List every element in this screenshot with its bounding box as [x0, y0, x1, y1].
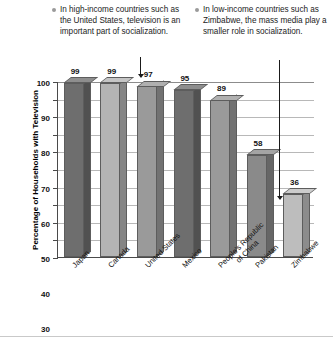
bar-top-face: [283, 188, 317, 194]
bar-top-face: [137, 81, 171, 87]
y-axis-tick-label: 90: [41, 114, 50, 123]
y-axis-tick-label: 30: [41, 325, 50, 334]
bar-value-label: 97: [144, 70, 153, 79]
plot-area: 010203040506070809010099999795895836: [57, 82, 313, 258]
arrow-to-united-states: [140, 57, 141, 77]
bar-side-face: [157, 81, 164, 257]
callout-high-income: In high-income countries such as the Uni…: [52, 4, 185, 62]
bar-value-label: 58: [254, 139, 263, 148]
callout-text-low-income: In low-income countries such as Zimbabwe…: [203, 4, 328, 38]
y-axis-tick: 40: [53, 188, 58, 189]
bar-side-face: [230, 95, 237, 257]
bar-value-label: 89: [217, 84, 226, 93]
bar-side-face: [84, 77, 91, 257]
y-axis-tick: 100: [53, 82, 58, 83]
bar-front-face: [100, 83, 120, 257]
y-axis-tick-label: 70: [41, 184, 50, 193]
y-axis-tick-label: 80: [41, 149, 50, 158]
bullet-icon: [52, 8, 56, 12]
y-axis-tick: 30: [53, 205, 58, 206]
bar-side-face: [194, 84, 201, 257]
bar-front-face: [64, 83, 84, 257]
y-axis-tick: 80: [53, 117, 58, 118]
bar-value-label: 95: [180, 74, 189, 83]
y-axis-tick: 0: [53, 258, 58, 259]
callout-low-income: In low-income countries such as Zimbabwe…: [195, 4, 328, 62]
bar-top-face: [174, 84, 208, 90]
chart-figure: In high-income countries such as the Uni…: [0, 0, 333, 337]
y-axis-tick-label: 40: [41, 290, 50, 299]
y-axis-tick: 10: [53, 240, 58, 241]
y-axis-tick: 50: [53, 170, 58, 171]
y-axis-tick-label: 50: [41, 255, 50, 264]
callout-text-high-income: In high-income countries such as the Uni…: [60, 4, 185, 38]
y-axis-tick: 60: [53, 152, 58, 153]
bar[interactable]: 97: [137, 86, 157, 257]
bar-front-face: [210, 100, 230, 257]
bar[interactable]: 36: [283, 194, 303, 257]
bar-side-face: [120, 77, 127, 257]
callout-container: In high-income countries such as the Uni…: [52, 4, 328, 62]
bar-front-face: [283, 194, 303, 257]
bar-side-face: [267, 149, 274, 257]
y-axis-tick-label: 100: [37, 79, 50, 88]
y-axis-tick-label: 60: [41, 219, 50, 228]
y-axis-title: Percentage of Households with Television: [24, 82, 48, 258]
bar[interactable]: 89: [210, 100, 230, 257]
bar-value-label: 99: [107, 67, 116, 76]
bullet-icon: [195, 8, 199, 12]
bar-front-face: [137, 86, 157, 257]
bar-top-face: [247, 149, 281, 155]
bar-value-label: 36: [290, 178, 299, 187]
bar[interactable]: 99: [100, 83, 120, 257]
bar[interactable]: 99: [64, 83, 84, 257]
y-axis-tick: 90: [53, 100, 58, 101]
arrow-to-zimbabwe: [279, 60, 280, 199]
y-axis-tick: 70: [53, 135, 58, 136]
y-axis-tick: 20: [53, 223, 58, 224]
bar-value-label: 99: [71, 67, 80, 76]
